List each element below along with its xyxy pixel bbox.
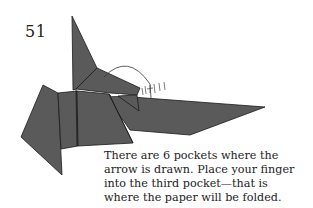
instruction-caption: There are 6 pockets where the arrow is d… xyxy=(104,149,313,205)
caption-line: where the paper will be folded. xyxy=(104,191,313,205)
caption-line: into the third pocket—that is xyxy=(104,177,313,191)
left-panel xyxy=(21,85,62,175)
middle-panel xyxy=(58,91,78,149)
caption-line: arrow is drawn. Place your finger xyxy=(104,163,313,177)
pocket-marks-icon xyxy=(142,82,165,95)
caption-line: There are 6 pockets where the xyxy=(104,149,313,163)
